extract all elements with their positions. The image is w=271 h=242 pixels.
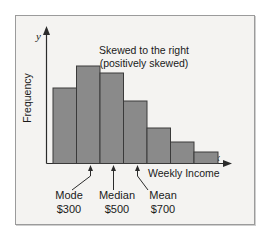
bar-2 [77, 66, 101, 164]
bar-6 [171, 142, 195, 164]
stat-name-mean: Mean [149, 189, 177, 201]
stat-label-mean: Mean $700 [149, 189, 177, 215]
stat-value-mode: $300 [57, 203, 81, 215]
bar-3 [100, 73, 124, 164]
stat-label-median: Median $500 [99, 189, 135, 215]
bar-1 [53, 88, 77, 164]
bar-7 [194, 152, 218, 164]
annotation-line-1: Skewed to the right [99, 44, 189, 56]
histogram-bars [53, 66, 218, 164]
marker-leader-lines [72, 176, 148, 190]
y-axis: y Frequency [21, 26, 50, 164]
annotation-line-2: (positively skewed) [100, 57, 189, 69]
skew-annotation: Skewed to the right (positively skewed) [99, 44, 189, 69]
marker-arrows [88, 165, 140, 176]
stat-name-median: Median [99, 189, 135, 201]
stat-value-median: $500 [105, 203, 129, 215]
y-axis-variable-label: y [35, 30, 41, 42]
histogram-plot: y Frequency x Weekly Income [0, 0, 271, 242]
figure-root: y Frequency x Weekly Income [0, 0, 271, 242]
y-axis-title: Frequency [21, 72, 33, 122]
stat-name-mode: Mode [55, 189, 83, 201]
bar-4 [124, 101, 148, 164]
x-axis-title: Weekly Income [148, 167, 220, 179]
bar-5 [147, 128, 171, 164]
stat-value-mean: $700 [151, 203, 175, 215]
stat-label-mode: Mode $300 [55, 189, 83, 215]
